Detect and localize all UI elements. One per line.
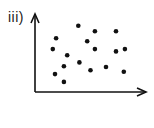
data-points [51,23,128,84]
data-point [85,39,90,44]
data-point [122,69,127,74]
data-point [114,49,119,54]
data-point [114,29,119,34]
data-point [76,23,81,28]
data-point [53,72,58,77]
data-point [93,29,98,34]
data-point [65,53,70,58]
data-point [62,80,67,85]
data-point [123,47,128,52]
data-point [93,47,98,52]
scatter-plot [0,0,154,128]
data-point [51,47,56,52]
data-point [77,60,82,65]
data-point [54,36,59,41]
y-axis [31,14,39,92]
data-point [88,68,93,73]
data-point [104,65,109,70]
x-axis [35,88,146,96]
data-point [62,64,67,69]
